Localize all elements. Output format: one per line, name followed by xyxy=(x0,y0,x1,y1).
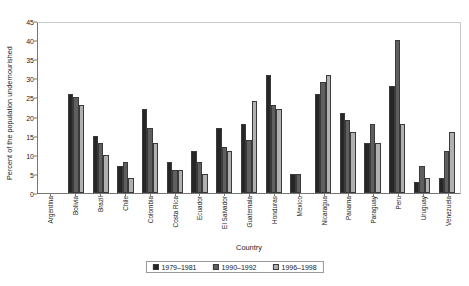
x-tick-label: Bolivia xyxy=(72,196,79,215)
x-label-cell: Chile xyxy=(112,195,137,243)
bar xyxy=(202,174,207,193)
legend-swatch-icon xyxy=(152,264,159,271)
y-tick-label: 0 xyxy=(17,191,34,198)
y-tick-label: 45 xyxy=(17,19,34,26)
bar-group xyxy=(39,23,64,193)
bar-group xyxy=(138,23,163,193)
bar-group xyxy=(88,23,113,193)
bar xyxy=(350,132,355,193)
bar-group xyxy=(434,23,459,193)
bar-group xyxy=(286,23,311,193)
x-label-cell: Venezuela xyxy=(435,195,460,243)
bar xyxy=(296,174,301,193)
y-tick-label: 15 xyxy=(17,133,34,140)
x-tick-label: Mexico xyxy=(295,196,302,216)
legend-item: 1979–1981 xyxy=(152,264,196,271)
x-tick-label: Guatemala xyxy=(246,196,253,227)
bar xyxy=(425,178,430,193)
bars-layer xyxy=(38,23,460,193)
legend-item: 1996–1998 xyxy=(273,264,317,271)
bar-group xyxy=(410,23,435,193)
y-tick-label: 30 xyxy=(17,76,34,83)
x-tick-label: Peru xyxy=(395,196,402,210)
y-tick-label: 5 xyxy=(17,171,34,178)
bar-group xyxy=(237,23,262,193)
y-axis-title: Percent of the population undernourished xyxy=(2,18,16,208)
bar xyxy=(276,109,281,193)
x-label-cell: Uruguay xyxy=(410,195,435,243)
y-axis-tick-labels: 051015202530354045 xyxy=(20,22,37,194)
bar xyxy=(375,143,380,193)
bar-group xyxy=(311,23,336,193)
x-tick-label: Argentina xyxy=(47,196,54,224)
x-tick-label: El Salvador xyxy=(221,196,228,229)
x-label-cell: Costa Rica xyxy=(162,195,187,243)
x-tick-label: Costa Rica xyxy=(171,196,178,227)
x-label-cell: Ecuador xyxy=(187,195,212,243)
x-axis-title: Country xyxy=(37,243,461,252)
x-label-cell: Brazil xyxy=(88,195,113,243)
y-tick-label: 40 xyxy=(17,38,34,45)
chart-legend: 1979–19811990–19921996–1998 xyxy=(145,261,323,273)
x-tick-label: Honduras xyxy=(270,196,277,224)
x-label-cell: El Salvador xyxy=(212,195,237,243)
x-tick-label: Panama xyxy=(345,196,352,220)
bar-group xyxy=(113,23,138,193)
legend-label: 1996–1998 xyxy=(282,264,317,271)
bar-group xyxy=(187,23,212,193)
x-label-cell: Panama xyxy=(336,195,361,243)
bar xyxy=(326,75,331,193)
bar-group xyxy=(360,23,385,193)
bar xyxy=(449,132,454,193)
x-tick-label: Ecuador xyxy=(196,196,203,220)
y-tick-label: 20 xyxy=(17,114,34,121)
x-label-cell: Peru xyxy=(386,195,411,243)
y-tick-label: 10 xyxy=(17,152,34,159)
x-tick-label: Brazil xyxy=(97,196,104,212)
x-label-cell: Argentina xyxy=(38,195,63,243)
bar xyxy=(79,105,84,193)
x-label-cell: Bolivia xyxy=(63,195,88,243)
x-label-cell: Honduras xyxy=(261,195,286,243)
y-tick-label: 35 xyxy=(17,57,34,64)
legend-swatch-icon xyxy=(212,264,219,271)
bar xyxy=(103,155,108,193)
legend-item: 1990–1992 xyxy=(212,264,256,271)
bar-chart-figure: Percent of the population undernourished… xyxy=(0,0,469,286)
legend-label: 1990–1992 xyxy=(221,264,256,271)
x-tick-label: Venezuela xyxy=(444,196,451,226)
bar xyxy=(252,101,257,193)
bar-group xyxy=(64,23,89,193)
x-tick-label: Paraguay xyxy=(370,196,377,224)
x-label-cell: Mexico xyxy=(286,195,311,243)
bar xyxy=(178,170,183,193)
x-tick-label: Chile xyxy=(121,196,128,211)
bar-group xyxy=(212,23,237,193)
bar-group xyxy=(261,23,286,193)
bar-group xyxy=(385,23,410,193)
bar xyxy=(153,143,158,193)
x-label-cell: Paraguay xyxy=(361,195,386,243)
x-label-cell: Colombia xyxy=(137,195,162,243)
x-axis-tick-labels: ArgentinaBoliviaBrazilChileColombiaCosta… xyxy=(37,195,461,243)
x-label-cell: Guatemala xyxy=(237,195,262,243)
x-label-cell: Nicaragua xyxy=(311,195,336,243)
bar xyxy=(227,151,232,193)
x-tick-label: Colombia xyxy=(146,196,153,223)
legend-label: 1979–1981 xyxy=(161,264,196,271)
bar-group xyxy=(335,23,360,193)
x-tick-label: Nicaragua xyxy=(320,196,327,225)
y-tick-label: 25 xyxy=(17,95,34,102)
bar-group xyxy=(163,23,188,193)
bar xyxy=(128,178,133,193)
legend-swatch-icon xyxy=(273,264,280,271)
bar xyxy=(400,124,405,193)
x-tick-label: Uruguay xyxy=(419,196,426,220)
plot-area xyxy=(37,22,461,194)
